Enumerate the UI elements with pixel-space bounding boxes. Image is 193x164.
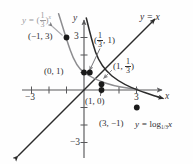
graph-figure: y = (13)x y = x y = log1/3x x y −3 3 3 −…	[0, 0, 193, 164]
y-tick-label-neg3: −3	[70, 138, 80, 148]
y-axis-label: y	[73, 14, 77, 24]
point-label-third-1: (13, 1)	[94, 32, 115, 49]
log-label-prefix: y =	[135, 119, 147, 129]
x-tick-label-3: 3	[134, 93, 139, 103]
one-third-prefix: (1,	[113, 61, 125, 71]
point-label-neg1-3: (−1, 3)	[28, 32, 53, 41]
point-neg1-3	[64, 35, 70, 41]
y-tick-label-3: 3	[74, 32, 79, 42]
label-identity-line: y = x	[140, 13, 160, 23]
log-label-func: log	[150, 119, 162, 129]
exp-label-prefix: y =	[22, 15, 34, 25]
exp-label-exponent: x	[49, 14, 51, 20]
third-1-suffix: , 1)	[103, 35, 115, 45]
label-curve-logarithm: y = log1/3x	[135, 120, 172, 130]
point-0-1	[81, 70, 87, 76]
point-1-one-third	[99, 81, 105, 87]
x-tick-label-neg3: −3	[25, 93, 35, 103]
log-label-argument: x	[168, 119, 172, 129]
point-1-0	[99, 87, 105, 93]
point-label-0-1: (0, 1)	[44, 67, 64, 76]
log-label-subscript: 1/3	[161, 124, 168, 130]
curve-exponential-one-third-power-x	[59, 14, 138, 89]
point-label-3-neg1: (3, −1)	[99, 119, 124, 128]
point-label-1-third: (1, 13)	[113, 58, 134, 75]
leader-exponential-label	[53, 27, 63, 36]
point-label-1-0: (1, 0)	[85, 97, 105, 106]
x-axis-label: x	[165, 92, 169, 102]
point-one-third-1	[87, 70, 93, 76]
one-third-suffix: )	[131, 61, 134, 71]
label-curve-exponential: y = (13)x	[22, 12, 51, 29]
point-3-neg1	[134, 105, 140, 111]
